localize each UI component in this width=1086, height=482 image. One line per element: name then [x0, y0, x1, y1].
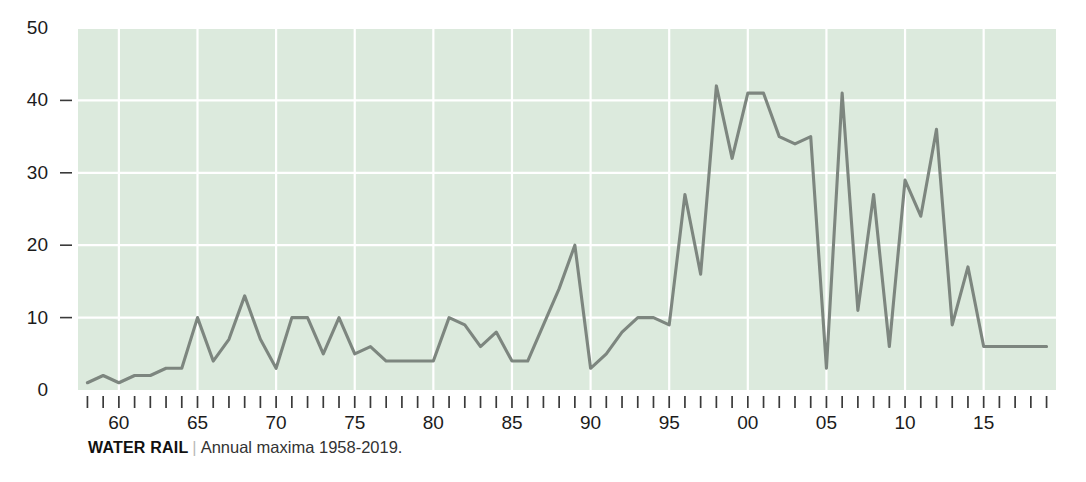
x-axis-tick-label: 60	[108, 412, 129, 433]
y-axis-tick-label: 30	[27, 162, 48, 183]
line-chart: 01020304050606570758085909500051015	[0, 0, 1086, 482]
x-axis-tick-label: 10	[894, 412, 915, 433]
x-axis-tick-label: 15	[973, 412, 994, 433]
chart-caption: WATER RAIL|Annual maxima 1958-2019.	[88, 437, 402, 458]
chart-figure: 01020304050606570758085909500051015 WATE…	[0, 0, 1086, 482]
x-axis-tick-label: 05	[816, 412, 837, 433]
x-axis-tick-label: 70	[266, 412, 287, 433]
x-axis-tick-label: 00	[737, 412, 758, 433]
y-axis-tick-label: 0	[37, 379, 48, 400]
plot-area-background	[78, 28, 1056, 390]
x-axis-tick-label: 85	[501, 412, 522, 433]
x-axis-tick-label: 80	[423, 412, 444, 433]
y-axis-tick-label: 50	[27, 17, 48, 38]
x-axis-tick-label: 90	[580, 412, 601, 433]
caption-species: WATER RAIL	[88, 439, 188, 456]
y-axis-tick-label: 10	[27, 307, 48, 328]
x-axis-tick-label: 75	[344, 412, 365, 433]
y-axis-tick-label: 20	[27, 234, 48, 255]
x-axis-tick-label: 95	[659, 412, 680, 433]
x-axis-tick-label: 65	[187, 412, 208, 433]
caption-subtitle: Annual maxima 1958-2019.	[201, 438, 403, 456]
y-axis-tick-label: 40	[27, 89, 48, 110]
caption-separator: |	[188, 438, 200, 456]
